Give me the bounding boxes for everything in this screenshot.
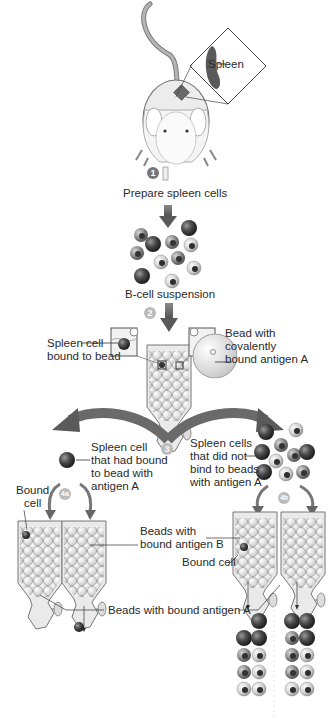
step-1-marker: 1 — [147, 167, 159, 179]
mouse-illustration — [136, 4, 266, 166]
label-spleen-cell-bound: Spleen cell bound to bead — [47, 337, 121, 363]
label-cells-did-not-bind: Spleen cells that did not bind to beads … — [190, 437, 262, 489]
arrow-down-icon — [159, 216, 177, 228]
step-4a-marker: 4a — [59, 488, 71, 500]
eluted-cells-left — [236, 613, 267, 696]
test-tube-icon — [163, 167, 168, 180]
label-bound-cell-right: Bound cell — [182, 556, 236, 569]
b-cell-suspension — [130, 220, 201, 288]
label-spleen: Spleen — [208, 58, 244, 71]
label-beads-antigen-a: Beads with bound antigen A — [108, 604, 251, 617]
step-2-marker: 2 — [144, 307, 156, 319]
label-prepare-spleen-cells: Prepare spleen cells — [123, 187, 227, 200]
label-beads-antigen-b: Beads with bound antigen B — [140, 525, 224, 551]
eluted-cells-right — [284, 613, 315, 696]
unbound-cells — [254, 423, 315, 481]
label-cell-had-bound: Spleen cell that had bound to bead with … — [91, 441, 168, 493]
label-bound-cell-left: Bound cell — [16, 484, 49, 510]
step-4b-marker: 4b — [278, 492, 290, 504]
arrow-left-icon — [52, 408, 80, 432]
label-b-cell-suspension: B-cell suspension — [125, 288, 215, 301]
arrow-down-icon — [160, 318, 178, 332]
label-bead-antigen-a: Bead with covalently bound antigen A — [225, 327, 308, 366]
